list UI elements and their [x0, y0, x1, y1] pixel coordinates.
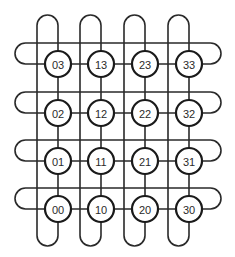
node-label: 33: [183, 59, 195, 71]
node-21: 21: [132, 148, 158, 174]
node-20: 20: [132, 196, 158, 222]
node-11: 11: [88, 148, 114, 174]
node-32: 32: [176, 100, 202, 126]
node-label: 00: [52, 204, 64, 216]
node-13: 13: [88, 51, 114, 77]
node-label: 13: [95, 59, 107, 71]
node-label: 22: [139, 108, 151, 120]
node-12: 12: [88, 100, 114, 126]
node-label: 10: [95, 204, 107, 216]
node-label: 31: [183, 156, 195, 168]
node-label: 02: [52, 108, 64, 120]
node-30: 30: [176, 196, 202, 222]
node-22: 22: [132, 100, 158, 126]
node-01: 01: [45, 148, 71, 174]
node-02: 02: [45, 100, 71, 126]
node-10: 10: [88, 196, 114, 222]
node-33: 33: [176, 51, 202, 77]
node-label: 20: [139, 204, 151, 216]
node-label: 21: [139, 156, 151, 168]
node-label: 32: [183, 108, 195, 120]
node-03: 03: [45, 51, 71, 77]
node-label: 12: [95, 108, 107, 120]
node-label: 11: [95, 156, 106, 168]
node-23: 23: [132, 51, 158, 77]
node-00: 00: [45, 196, 71, 222]
node-label: 03: [52, 59, 64, 71]
node-label: 01: [52, 156, 64, 168]
node-label: 30: [183, 204, 195, 216]
node-label: 23: [139, 59, 151, 71]
node-31: 31: [176, 148, 202, 174]
folded-torus-diagram: 03132333021222320111213100102030: [0, 0, 235, 257]
